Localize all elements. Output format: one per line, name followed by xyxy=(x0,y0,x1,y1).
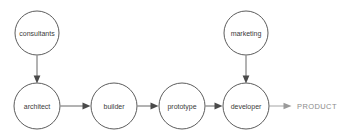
node-consultants[interactable]: consultants xyxy=(15,11,59,55)
flow-diagram: consultants marketing architect builder … xyxy=(0,0,352,135)
terminal-label-product: PRODUCT xyxy=(297,102,337,111)
edge-marketing-to-developer xyxy=(243,56,250,84)
edge-builder-to-prototype xyxy=(138,103,159,110)
arrowhead-consultants-architect xyxy=(34,76,41,84)
edge-architect-to-builder xyxy=(61,103,91,110)
edge-consultants-to-architect xyxy=(34,56,41,84)
arrowhead-architect-builder xyxy=(83,103,91,110)
node-label-developer: developer xyxy=(231,103,262,111)
node-label-consultants: consultants xyxy=(19,30,55,37)
arrowhead-prototype-developer xyxy=(215,103,223,110)
edge-developer-to-product xyxy=(270,103,292,109)
arrowhead-developer-product xyxy=(284,103,292,109)
diagram-canvas: consultants marketing architect builder … xyxy=(0,0,352,135)
arrowhead-builder-prototype xyxy=(151,103,159,110)
node-label-architect: architect xyxy=(24,103,51,110)
node-label-marketing: marketing xyxy=(231,30,262,38)
node-architect[interactable]: architect xyxy=(14,83,60,129)
node-marketing[interactable]: marketing xyxy=(224,11,268,55)
node-label-prototype: prototype xyxy=(167,103,196,111)
edge-prototype-to-developer xyxy=(206,103,223,110)
node-developer[interactable]: developer xyxy=(223,83,269,129)
node-label-builder: builder xyxy=(103,103,125,110)
arrowhead-marketing-developer xyxy=(243,76,250,84)
node-builder[interactable]: builder xyxy=(91,83,137,129)
node-prototype[interactable]: prototype xyxy=(159,83,205,129)
